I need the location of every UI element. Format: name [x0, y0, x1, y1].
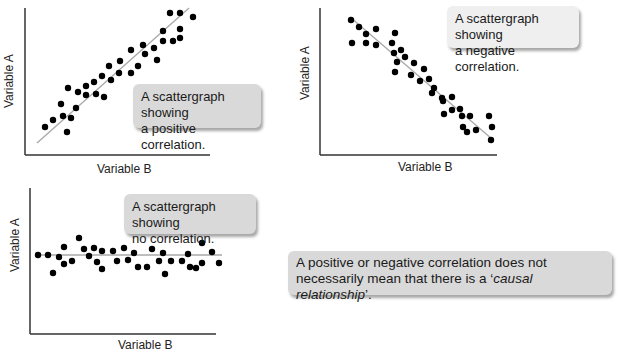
- data-point: [99, 73, 105, 79]
- data-point: [50, 270, 56, 276]
- negative-correlation-callout: A scattergraph showing a negative correl…: [447, 6, 579, 48]
- data-point: [179, 258, 185, 264]
- no-correlation-callout: A scattergraph showing no correlation.: [124, 194, 256, 234]
- data-point: [160, 28, 166, 34]
- data-point: [411, 60, 417, 66]
- data-point: [489, 124, 495, 130]
- data-point: [373, 42, 379, 48]
- data-point: [117, 58, 123, 64]
- data-point: [91, 245, 97, 251]
- data-point: [65, 85, 71, 91]
- data-point: [114, 258, 120, 264]
- data-point: [417, 78, 423, 84]
- data-point: [177, 35, 183, 41]
- data-point: [110, 248, 116, 254]
- data-point: [154, 57, 160, 63]
- data-point: [426, 76, 432, 82]
- data-point: [160, 250, 166, 256]
- data-point: [58, 101, 64, 107]
- data-point: [56, 254, 62, 260]
- data-point: [35, 252, 41, 258]
- data-point: [348, 17, 354, 23]
- data-point: [156, 258, 162, 264]
- data-point: [81, 246, 87, 252]
- data-point: [199, 260, 205, 266]
- data-point: [449, 107, 455, 113]
- data-point: [108, 77, 114, 83]
- y-axis-label: Variable A: [2, 54, 16, 108]
- positive-correlation-callout: A scattergraph showing a positive correl…: [133, 84, 261, 128]
- data-point: [75, 89, 81, 95]
- data-point: [441, 111, 447, 117]
- callout-line-1: A scattergraph showing: [455, 11, 571, 43]
- data-point: [135, 264, 141, 270]
- data-point: [64, 129, 70, 135]
- data-point: [363, 31, 369, 37]
- data-point: [151, 45, 157, 51]
- data-point: [190, 14, 196, 20]
- data-point: [170, 38, 176, 44]
- y-axis-label: Variable A: [8, 218, 22, 272]
- data-point: [68, 115, 74, 121]
- data-point: [459, 113, 465, 119]
- note-text-end: ’.: [365, 287, 372, 302]
- data-point: [86, 253, 92, 259]
- data-point: [162, 271, 168, 277]
- note-line-1: A positive or negative correlation does …: [296, 255, 604, 271]
- data-point: [391, 50, 397, 56]
- data-point: [389, 40, 395, 46]
- data-point: [128, 47, 134, 53]
- data-point: [94, 259, 100, 265]
- data-point: [167, 10, 173, 16]
- data-point: [50, 117, 56, 123]
- y-axis-label: Variable A: [298, 46, 312, 100]
- callout-line-1: A scattergraph showing: [141, 89, 253, 121]
- data-point: [142, 51, 148, 57]
- data-point: [209, 249, 215, 255]
- data-point: [128, 70, 134, 76]
- data-point: [356, 24, 362, 30]
- x-axis-label: Variable B: [97, 162, 151, 176]
- data-point: [193, 265, 199, 271]
- data-point: [431, 85, 437, 91]
- data-point: [457, 106, 463, 112]
- x-axis-label: Variable B: [118, 338, 172, 352]
- note-line-2: necessarily mean that there is a ‘causal…: [296, 271, 604, 303]
- data-point: [168, 258, 174, 264]
- data-point: [61, 261, 67, 267]
- data-point: [45, 252, 51, 258]
- callout-line-2: a negative correlation.: [455, 43, 571, 75]
- data-point: [349, 40, 355, 46]
- causal-relationship-note: A positive or negative correlation does …: [288, 251, 612, 295]
- data-point: [101, 94, 107, 100]
- data-point: [99, 248, 105, 254]
- data-point: [392, 69, 398, 75]
- data-point: [76, 235, 82, 241]
- data-point: [91, 79, 97, 85]
- data-point: [398, 47, 404, 53]
- data-point: [449, 94, 455, 100]
- data-point: [464, 129, 470, 135]
- data-point: [83, 83, 89, 89]
- callout-line-2: a positive correlation.: [141, 121, 253, 153]
- data-point: [408, 72, 414, 78]
- data-point: [185, 251, 191, 257]
- data-point: [61, 244, 67, 250]
- data-point: [363, 40, 369, 46]
- data-point: [392, 30, 398, 36]
- data-point: [42, 124, 48, 130]
- data-point: [460, 124, 466, 130]
- data-point: [135, 63, 141, 69]
- note-text: necessarily mean that there is a ‘: [296, 271, 493, 286]
- data-point: [402, 54, 408, 60]
- data-point: [373, 26, 379, 32]
- data-point: [421, 66, 427, 72]
- data-point: [177, 26, 183, 32]
- data-point: [106, 63, 112, 69]
- data-point: [73, 105, 79, 111]
- data-point: [160, 38, 166, 44]
- data-point: [144, 264, 150, 270]
- data-point: [473, 127, 479, 133]
- x-axis-label: Variable B: [398, 160, 452, 174]
- data-point: [93, 91, 99, 97]
